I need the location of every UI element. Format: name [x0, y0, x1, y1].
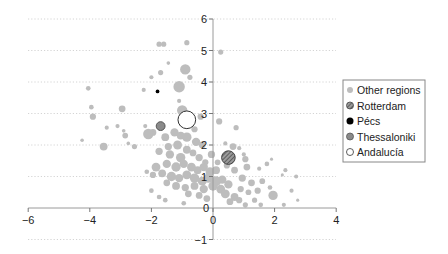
point-other-regions — [296, 199, 299, 202]
legend-marker — [347, 118, 354, 125]
point-other-regions — [157, 195, 162, 200]
y-tick-label: 1 — [201, 171, 207, 183]
point-other-regions — [163, 198, 168, 203]
point-other-regions — [149, 75, 153, 79]
point-other-regions — [200, 185, 208, 193]
point-other-regions — [231, 167, 238, 174]
point-other-regions — [126, 142, 130, 146]
point-other-regions — [242, 152, 246, 156]
x-tick-label: 4 — [333, 214, 339, 226]
point-other-regions — [100, 143, 108, 151]
point-other-regions — [282, 203, 286, 207]
y-tick-label: 0 — [203, 202, 209, 214]
x-tick-label: 2 — [272, 214, 278, 226]
point-other-regions — [157, 42, 162, 47]
point-other-regions — [142, 88, 146, 92]
point-other-regions — [177, 99, 181, 103]
point-other-regions — [185, 190, 192, 197]
point-other-regions — [237, 146, 241, 150]
point-other-regions — [239, 174, 246, 181]
point-other-regions — [221, 189, 230, 198]
point-other-regions — [281, 173, 284, 176]
point-other-regions — [224, 180, 232, 188]
point-other-regions — [244, 164, 251, 171]
point-other-regions — [196, 154, 203, 161]
x-tick-label: 0 — [210, 214, 216, 226]
point-other-regions — [90, 114, 96, 120]
point-other-regions — [105, 126, 109, 130]
point-other-regions — [203, 195, 210, 202]
y-tick-label: 4 — [201, 76, 207, 88]
point-other-regions — [257, 167, 261, 171]
point-other-regions — [167, 61, 171, 65]
point-other-regions — [243, 202, 248, 207]
point-other-regions — [163, 179, 170, 186]
point-other-regions — [166, 150, 174, 158]
point-pecs — [156, 90, 160, 94]
point-other-regions — [283, 168, 287, 172]
point-other-regions — [132, 144, 137, 149]
point-other-regions — [155, 148, 162, 155]
x-tick-label: −2 — [145, 214, 158, 226]
point-other-regions — [163, 160, 171, 168]
x-tick-label: −6 — [22, 214, 35, 226]
y-tick-label: −1 — [194, 234, 207, 246]
point-other-regions — [215, 159, 221, 165]
point-other-regions — [122, 133, 128, 139]
data-points — [80, 40, 299, 207]
point-andalucia — [178, 111, 196, 129]
y-tick-label: 3 — [201, 108, 207, 120]
legend-label: Rotterdam — [357, 100, 406, 112]
point-other-regions — [187, 75, 192, 80]
point-other-regions — [289, 189, 293, 193]
point-rotterdam — [222, 151, 236, 165]
point-other-regions — [150, 172, 156, 178]
x-tick-label: −4 — [84, 214, 97, 226]
point-other-regions — [294, 174, 298, 178]
point-other-regions — [182, 71, 185, 74]
legend: Other regionsRotterdamPécsThessalonikiAn… — [343, 80, 425, 162]
point-other-regions — [268, 191, 277, 200]
scatter-chart: −6−4−2024−10123456 Other regionsRotterda… — [0, 0, 448, 254]
point-other-regions — [259, 178, 265, 184]
point-other-regions — [196, 192, 203, 199]
point-other-regions — [223, 141, 227, 145]
point-other-regions — [191, 182, 199, 190]
point-other-regions — [190, 149, 197, 156]
point-other-regions — [143, 124, 147, 128]
legend-label: Thessaloniki — [357, 131, 415, 143]
legend-label: Pécs — [357, 115, 380, 127]
point-other-regions — [218, 49, 223, 54]
legend-marker — [347, 149, 354, 156]
point-other-regions — [143, 129, 153, 139]
point-other-regions — [175, 174, 183, 182]
point-other-regions — [172, 182, 180, 190]
point-other-regions — [242, 156, 248, 162]
gridlines — [28, 19, 336, 240]
point-other-regions — [246, 189, 252, 195]
point-other-regions — [86, 86, 91, 91]
point-other-regions — [144, 169, 149, 174]
point-other-regions — [165, 143, 172, 150]
point-other-regions — [158, 169, 166, 177]
y-tick-label: 5 — [201, 45, 207, 57]
point-other-regions — [181, 201, 186, 206]
point-other-regions — [268, 185, 273, 190]
point-other-regions — [234, 125, 239, 130]
point-thessaloniki — [156, 122, 165, 131]
legend-label: Andalucía — [357, 146, 404, 158]
point-other-regions — [270, 158, 273, 161]
point-other-regions — [119, 105, 126, 112]
point-other-regions — [255, 188, 261, 194]
point-other-regions — [208, 151, 215, 158]
point-other-regions — [173, 141, 182, 150]
point-other-regions — [161, 42, 166, 47]
point-other-regions — [180, 160, 188, 168]
point-other-regions — [238, 186, 244, 192]
point-other-regions — [258, 203, 263, 208]
legend-marker — [347, 102, 354, 109]
point-other-regions — [173, 81, 184, 92]
point-other-regions — [236, 197, 242, 203]
point-other-regions — [190, 173, 199, 182]
axes: −6−4−2024−10123456 — [22, 13, 339, 246]
